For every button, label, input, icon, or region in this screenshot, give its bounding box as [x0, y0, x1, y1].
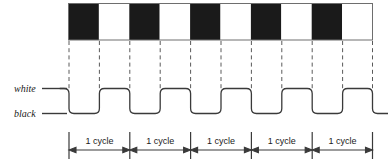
- cycle-arrowhead-left: [69, 147, 76, 153]
- checker-square-black: [69, 4, 99, 41]
- cycle-arrowhead-left: [191, 147, 198, 153]
- white-level-label: white: [14, 83, 36, 94]
- square-wave-trace: [60, 89, 388, 114]
- checker-square-black: [190, 4, 220, 41]
- checker-square-white: [99, 4, 129, 41]
- cycle-label-group: 1 cycle 1 cycle 1 cycle 1 cycle 1 cycle: [85, 136, 356, 146]
- checker-square-white: [160, 4, 190, 41]
- checker-square-white: [281, 4, 311, 41]
- checker-square-black: [312, 4, 342, 41]
- cycle-arrowhead-right: [366, 147, 373, 153]
- cycle-label: 1 cycle: [268, 136, 296, 146]
- checker-square-white: [342, 4, 372, 41]
- waveform-figure: white black: [0, 0, 388, 165]
- cycle-label: 1 cycle: [146, 136, 174, 146]
- dashed-guide-lines: [69, 41, 373, 90]
- cycle-label: 1 cycle: [207, 136, 235, 146]
- cycle-arrow-group: [69, 147, 373, 153]
- cycle-label: 1 cycle: [85, 136, 113, 146]
- waveform-diagram-svg: white black: [0, 0, 388, 165]
- cycle-label: 1 cycle: [328, 136, 356, 146]
- black-level-label: black: [14, 108, 36, 119]
- checkerboard-strip: [69, 4, 373, 41]
- cycle-arrowhead-left: [130, 147, 137, 153]
- waveform-path: [60, 89, 388, 114]
- level-labels: white black: [14, 83, 67, 119]
- checker-square-white: [221, 4, 251, 41]
- cycle-arrowhead-left: [312, 147, 319, 153]
- checker-square-black: [251, 4, 281, 41]
- checker-square-black: [129, 4, 159, 41]
- cycle-arrowhead-left: [251, 147, 258, 153]
- cycle-measure-bar: 1 cycle 1 cycle 1 cycle 1 cycle 1 cycle: [69, 132, 373, 159]
